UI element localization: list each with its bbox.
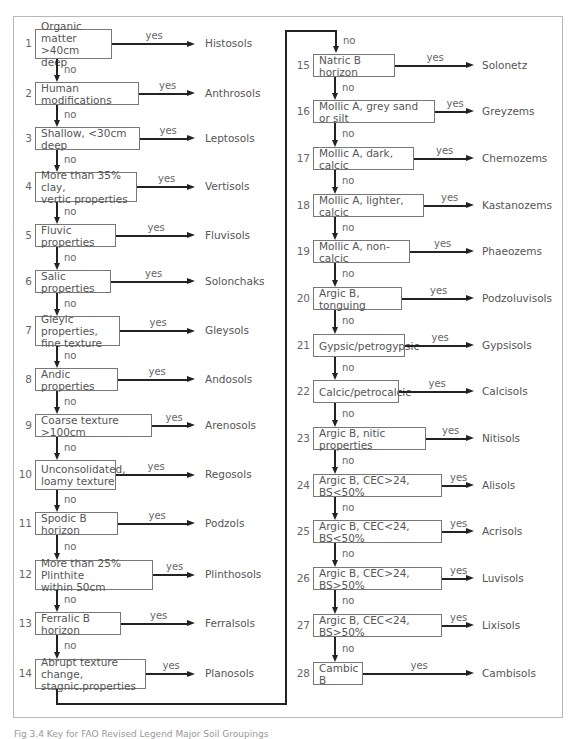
arrow-right-icon: [187, 422, 195, 428]
arrow-right-icon: [187, 671, 195, 677]
no-label: no: [342, 175, 354, 186]
yes-arrow-line: [402, 298, 468, 300]
yes-label: yes: [450, 472, 467, 483]
no-arrow-line: [56, 247, 58, 264]
yes-label: yes: [442, 425, 459, 436]
arrow-right-icon: [187, 90, 195, 96]
arrow-right-icon: [466, 108, 474, 114]
no-arrow-line: [334, 217, 336, 234]
soil-group-outcome: Arenosols: [205, 419, 256, 431]
soil-group-outcome: Cambisols: [482, 667, 536, 679]
connector-up: [285, 30, 287, 705]
no-label: no: [342, 315, 354, 326]
question-box: More than 25% Plinthite within 50cm: [35, 560, 153, 590]
yes-label: yes: [150, 610, 167, 621]
yes-label: yes: [432, 332, 449, 343]
yes-label: yes: [441, 192, 458, 203]
arrow-right-icon: [466, 575, 474, 581]
yes-arrow-line: [116, 474, 189, 476]
arrow-right-icon: [466, 248, 474, 254]
question-box: Mollic A, non-calcic: [313, 240, 410, 263]
arrow-right-icon: [187, 472, 195, 478]
soil-group-outcome: Acrisols: [482, 525, 522, 537]
yes-label: yes: [158, 173, 175, 184]
yes-arrow-line: [140, 138, 189, 140]
arrow-right-icon: [466, 388, 474, 394]
no-label: no: [64, 64, 76, 75]
figure-caption: Fig 3.4 Key for FAO Revised Legend Major…: [14, 729, 268, 739]
arrow-right-icon: [466, 202, 474, 208]
yes-label: yes: [447, 98, 464, 109]
no-arrow-line: [334, 123, 336, 141]
arrow-right-icon: [187, 376, 195, 382]
yes-arrow-line: [118, 379, 189, 381]
step-number: 1: [12, 37, 32, 49]
no-arrow-line: [56, 535, 58, 554]
no-label: no: [342, 408, 354, 419]
yes-arrow-line: [112, 43, 189, 45]
step-number: 19: [290, 245, 310, 257]
question-box: Argic B, CEC>24, BS<50%: [313, 474, 442, 497]
question-box: Argic B, CEC<24, BS>50%: [313, 614, 442, 637]
soil-group-outcome: Nitisols: [482, 432, 520, 444]
yes-label: yes: [146, 30, 163, 41]
yes-label: yes: [429, 378, 446, 389]
question-box: Ferralic B horizon: [35, 612, 121, 635]
no-label: no: [64, 252, 76, 263]
step-number: 23: [290, 432, 310, 444]
step-number: 3: [12, 132, 32, 144]
yes-label: yes: [430, 285, 447, 296]
soil-group-outcome: Leptosols: [205, 132, 255, 144]
yes-label: yes: [427, 52, 444, 63]
question-box: Fluvic properties: [35, 224, 116, 247]
no-arrow-line: [56, 437, 58, 454]
no-label: no: [64, 494, 76, 505]
arrow-right-icon: [466, 62, 474, 68]
no-label: no: [64, 350, 76, 361]
yes-arrow-line: [399, 391, 468, 393]
soil-group-outcome: Anthrosols: [205, 87, 260, 99]
step-number: 21: [290, 339, 310, 351]
question-box: Abrupt texture change, stagnic.propertie…: [35, 659, 146, 689]
soil-group-outcome: Calcisols: [482, 385, 528, 397]
step-number: 2: [12, 87, 32, 99]
no-arrow-line: [334, 543, 336, 561]
arrow-right-icon: [466, 155, 474, 161]
arrow-right-icon: [187, 41, 195, 47]
no-arrow-line: [56, 391, 58, 408]
no-arrow-line: [334, 637, 336, 656]
question-box: More than 35% clay, vertic properties: [35, 172, 137, 202]
yes-arrow-line: [426, 438, 468, 440]
step-number: 13: [12, 617, 32, 629]
yes-arrow-line: [424, 205, 468, 207]
no-label: no: [342, 455, 354, 466]
no-arrow-line: [56, 202, 58, 218]
no-arrow-line: [56, 150, 58, 166]
soil-group-outcome: Solonchaks: [205, 275, 265, 287]
yes-label: yes: [159, 80, 176, 91]
arrow-right-icon: [466, 342, 474, 348]
yes-arrow-line: [395, 65, 468, 67]
question-box: Argic B, nitic properties: [313, 427, 426, 450]
soil-group-outcome: Andosols: [205, 373, 252, 385]
soil-group-outcome: Histosols: [205, 37, 252, 49]
yes-arrow-line: [116, 235, 189, 237]
soil-group-outcome: Gypsisols: [482, 339, 532, 351]
connector-into-15: [335, 30, 337, 47]
question-box: Unconsolidated, loamy texture: [35, 460, 116, 490]
step-number: 5: [12, 229, 32, 241]
question-box: Coarse texture >100cm: [35, 414, 152, 437]
soil-group-outcome: Ferralsols: [205, 617, 255, 629]
step-number: 7: [12, 324, 32, 336]
arrow-right-icon: [466, 670, 474, 676]
no-label: no: [342, 128, 354, 139]
soil-group-outcome: Luvisols: [482, 572, 524, 584]
step-number: 9: [12, 419, 32, 431]
step-number: 4: [12, 180, 32, 192]
yes-label: yes: [160, 125, 177, 136]
no-label: no: [64, 594, 76, 605]
arrow-right-icon: [187, 520, 195, 526]
soil-group-outcome: Gleysols: [205, 324, 249, 336]
no-arrow-line: [56, 635, 58, 653]
yes-arrow-line: [152, 425, 189, 427]
